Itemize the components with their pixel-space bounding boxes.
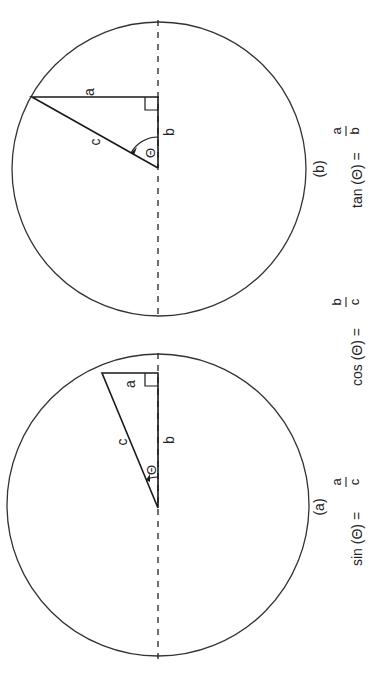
formula-sin-lhs: sin (Θ) =: [349, 512, 365, 566]
right-triangle-b: [32, 97, 158, 168]
label-opposite-b: a: [81, 88, 97, 96]
label-hypotenuse-b: c: [87, 139, 103, 146]
trig-diagram-figure: a b c Θ (b) a b c Θ (a) sin (Θ) = a c co…: [0, 0, 387, 674]
formula-cos-denominator: c: [347, 298, 362, 305]
right-triangle-a: [102, 373, 158, 508]
formula-tan-denominator: b: [347, 127, 362, 134]
label-angle-b: Θ: [143, 148, 158, 158]
panel-a: a b c Θ (a): [7, 353, 327, 659]
formula-tan-lhs: tan (Θ) =: [349, 152, 365, 208]
label-adjacent-b: b: [161, 128, 177, 136]
caption-a: (a): [311, 498, 327, 515]
formula-sin-numerator: a: [329, 478, 344, 486]
label-hypotenuse-a: c: [114, 439, 130, 446]
label-adjacent-a: b: [161, 436, 177, 444]
formula-sin: sin (Θ) = a c: [329, 477, 365, 566]
formula-tan: tan (Θ) = a b: [329, 126, 365, 208]
formula-sin-denominator: c: [347, 478, 362, 485]
unit-circle-b: [12, 22, 306, 316]
right-angle-marker-a: [145, 373, 158, 386]
formula-tan-numerator: a: [329, 127, 344, 135]
label-angle-a: Θ: [144, 465, 159, 475]
right-angle-marker-b: [145, 97, 158, 110]
panel-b: a b c Θ (b): [12, 20, 327, 318]
label-opposite-a: a: [122, 380, 138, 388]
formula-cos: cos (Θ) = b c: [329, 297, 365, 386]
caption-b: (b): [311, 160, 327, 177]
formula-cos-lhs: cos (Θ) =: [349, 328, 365, 386]
formula-cos-numerator: b: [329, 298, 344, 305]
